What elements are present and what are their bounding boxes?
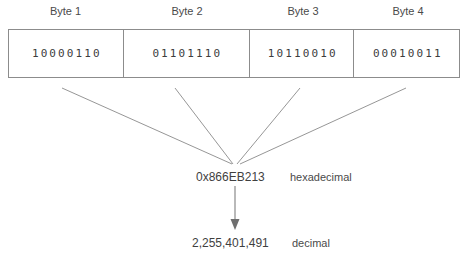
byte-label-4: Byte 4 <box>356 5 460 18</box>
hex-to-decimal-arrow <box>231 186 240 230</box>
byte-cell-1: 10000110 <box>9 30 124 77</box>
connector-line-byte-2 <box>175 88 233 164</box>
byte-cell-2: 01101110 <box>124 30 250 77</box>
decimal-value: 2,255,401,491 <box>192 236 269 250</box>
connector-line-byte-1 <box>62 88 232 164</box>
connector-line-byte-3 <box>237 88 300 164</box>
byte-cell-3: 10110010 <box>250 30 355 77</box>
byte-label-3: Byte 3 <box>251 5 355 18</box>
byte-label-2: Byte 2 <box>124 5 250 18</box>
byte-bits-4: 00010011 <box>371 47 443 60</box>
connector-line-byte-4 <box>240 88 406 164</box>
hexadecimal-value: 0x866EB213 <box>196 170 265 184</box>
byte-bits-1: 10000110 <box>30 47 102 60</box>
byte-row: 10000110 01101110 10110010 00010011 <box>8 29 460 78</box>
byte-cell-4: 00010011 <box>354 30 459 77</box>
decimal-caption: decimal <box>292 237 330 250</box>
byte-bits-2: 01101110 <box>150 47 222 60</box>
byte-bits-3: 10110010 <box>266 47 338 60</box>
byte-label-1: Byte 1 <box>8 5 123 18</box>
byte-conversion-diagram: Byte 1 Byte 2 Byte 3 Byte 4 10000110 011… <box>0 0 468 256</box>
hexadecimal-caption: hexadecimal <box>290 171 352 184</box>
